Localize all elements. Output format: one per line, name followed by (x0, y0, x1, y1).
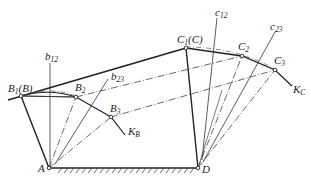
ground-link (49, 168, 198, 173)
label-c1: C1(C) (177, 33, 203, 47)
label-b1: B1(B) (8, 82, 33, 96)
label-c2: C2 (238, 40, 249, 54)
joint-d (196, 166, 200, 170)
label-c12: c12 (215, 6, 228, 20)
label-a: A (37, 162, 45, 174)
label-b3: B3 (110, 102, 121, 116)
joint-c3 (273, 68, 277, 72)
joint-b1 (19, 94, 23, 98)
label-kc: KC (292, 83, 306, 97)
joint-b3 (109, 115, 113, 119)
joint-b2 (74, 95, 78, 99)
linkage-diagram: B1(B) B2 B3 C1(C) C2 C3 A D b12 b23 c12 … (0, 0, 311, 185)
rocker-d-c1 (186, 48, 198, 168)
label-c23: c23 (270, 20, 283, 34)
label-d: D (201, 163, 210, 175)
joint-c2 (240, 54, 244, 58)
label-b23: b23 (111, 70, 124, 84)
joint-a (47, 166, 51, 170)
label-kb: KB (127, 125, 140, 139)
label-b2: B2 (75, 81, 86, 95)
label-b12: b12 (45, 50, 58, 64)
crank-a-b1 (21, 96, 49, 168)
bisector-c12 (202, 18, 217, 160)
label-c3: C3 (274, 54, 285, 68)
